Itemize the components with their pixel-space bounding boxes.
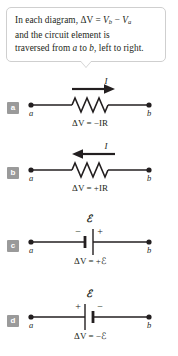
callout-line1-prefix: In each diagram, [15, 15, 80, 25]
node-label-a-left: a [29, 108, 33, 118]
current-arrow-a [72, 84, 115, 94]
circuit-svg-b: I a b ΔV = +IR [0, 143, 178, 208]
node-label-c-right: b [147, 245, 151, 255]
callout-equals: = [93, 15, 103, 25]
callout-delta-v: ΔV [80, 15, 93, 25]
current-label-a: I [104, 78, 109, 86]
circuit-svg-a: I a b ΔV = −IR [0, 78, 178, 143]
equation-c: ΔV = +ℰ [74, 256, 107, 266]
callout-tail-fill [80, 60, 92, 67]
terminal-sign-c-left: − [75, 226, 81, 237]
equation-a: ΔV = −IR [72, 118, 108, 128]
terminal-dot-a-right [146, 102, 151, 107]
terminal-dot-b-left [28, 167, 33, 172]
callout-line3-mid: to [77, 43, 89, 53]
terminal-dot-b-right [146, 167, 151, 172]
callout-text: In each diagram, ΔV = Vb − Va and the ci… [15, 14, 158, 55]
diagram-a: a I a b ΔV = −IR [0, 78, 178, 143]
terminal-dot-d-right [146, 314, 151, 319]
circuit-svg-d: ℰ + − a b ΔV = −ℰ [0, 284, 178, 354]
resistor-symbol-b [72, 163, 108, 177]
terminal-dot-c-right [146, 239, 151, 244]
current-label-b: I [104, 143, 109, 151]
terminal-sign-c-right: + [97, 226, 103, 237]
node-label-d-right: b [147, 320, 151, 330]
battery-symbol-c [85, 229, 93, 255]
resistor-symbol-a [72, 98, 108, 112]
equation-d: ΔV = −ℰ [74, 331, 107, 341]
circuit-svg-c: ℰ − + a b ΔV = +ℰ [0, 209, 178, 279]
battery-symbol-d [85, 304, 93, 330]
node-label-b-right: b [147, 173, 151, 183]
node-label-a-right: b [147, 108, 151, 118]
node-label-d-left: a [29, 320, 33, 330]
diagram-c: c ℰ − + a b ΔV = +ℰ [0, 209, 178, 274]
diagram-b: b I a b ΔV = +IR [0, 143, 178, 208]
emf-label-c: ℰ [86, 213, 94, 224]
callout-box: In each diagram, ΔV = Vb − Va and the ci… [6, 7, 166, 62]
callout-line3-suffix: , left to right. [94, 43, 144, 53]
emf-label-d: ℰ [86, 288, 94, 299]
terminal-sign-d-right: − [97, 301, 103, 312]
node-label-c-left: a [29, 245, 33, 255]
node-label-b-left: a [29, 173, 33, 183]
callout-va-subscript: a [128, 18, 131, 25]
terminal-dot-c-left [28, 239, 33, 244]
callout-minus: − [112, 15, 122, 25]
callout-line2: and the circuit element is [15, 30, 110, 40]
terminal-dot-d-left [28, 314, 33, 319]
callout-line3-prefix: traversed from [15, 43, 73, 53]
diagram-d: d ℰ + − a b ΔV = −ℰ [0, 284, 178, 349]
terminal-sign-d-left: + [75, 301, 81, 312]
equation-b: ΔV = +IR [72, 183, 108, 193]
terminal-dot-a-left [28, 102, 33, 107]
current-arrow-b [72, 149, 115, 159]
